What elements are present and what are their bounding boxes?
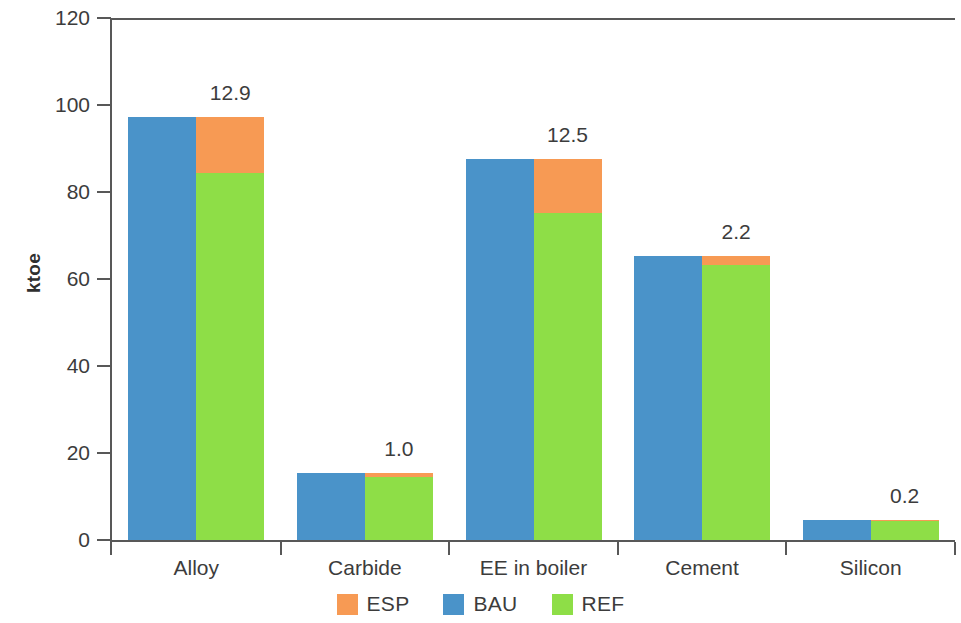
bar-stack-ref-esp — [871, 520, 939, 540]
bar-stack-ref-esp — [365, 473, 433, 540]
bar-group — [297, 18, 433, 540]
bar-segment-esp — [196, 117, 264, 173]
bar-bau — [297, 473, 365, 540]
bar-stack-ref-esp — [534, 159, 602, 540]
x-axis-tick — [954, 542, 956, 555]
legend-swatch-icon — [552, 594, 573, 615]
bar-value-label: 2.2 — [721, 220, 750, 244]
bar-stack-ref-esp — [702, 256, 770, 540]
x-axis-tick — [280, 542, 282, 555]
bar-group — [634, 18, 770, 540]
x-axis-category-label: Silicon — [840, 556, 902, 580]
y-axis-tick-label: 80 — [20, 180, 90, 204]
y-axis-tick-label: 40 — [20, 354, 90, 378]
bar-group — [466, 18, 602, 540]
y-axis-tick — [97, 365, 111, 367]
bar-bau — [128, 117, 196, 540]
y-axis-tick — [97, 191, 111, 193]
legend-item-ref[interactable]: REF — [552, 592, 625, 616]
x-axis-category-label: Alloy — [174, 556, 220, 580]
bar-segment-esp — [365, 473, 433, 477]
y-axis-tick-label: 60 — [20, 267, 90, 291]
legend-label: ESP — [367, 592, 410, 616]
x-axis-tick — [785, 542, 787, 555]
y-axis-tick-label: 0 — [20, 528, 90, 552]
legend-swatch-icon — [337, 594, 358, 615]
bar-segment-esp — [702, 256, 770, 266]
bar-bau — [466, 159, 534, 540]
legend-label: BAU — [473, 592, 517, 616]
bar-segment-esp — [871, 520, 939, 521]
bar-value-label: 12.9 — [210, 81, 251, 105]
legend-label: REF — [582, 592, 625, 616]
bar-segment-esp — [534, 159, 602, 213]
bar-stack-ref-esp — [196, 117, 264, 540]
y-axis-tick — [97, 278, 111, 280]
legend-item-esp[interactable]: ESP — [337, 592, 410, 616]
bar-bau — [803, 520, 871, 540]
bar-segment-ref — [702, 265, 770, 540]
x-axis-category-label: Cement — [665, 556, 739, 580]
bar-value-label: 0.2 — [890, 484, 919, 508]
bar-bau — [634, 256, 702, 540]
y-axis-tick — [97, 539, 111, 541]
bar-segment-ref — [534, 213, 602, 540]
x-axis-origin-tick — [110, 542, 112, 555]
x-axis-category-label: Carbide — [328, 556, 402, 580]
y-axis-tick — [97, 17, 111, 19]
bar-segment-ref — [871, 521, 939, 540]
y-axis-tick-label: 100 — [20, 93, 90, 117]
y-axis-tick-label: 20 — [20, 441, 90, 465]
bar-group — [803, 18, 939, 540]
x-axis-tick — [448, 542, 450, 555]
bar-value-label: 12.5 — [547, 123, 588, 147]
bar-segment-ref — [196, 173, 264, 540]
x-axis-tick — [617, 542, 619, 555]
legend-item-bau[interactable]: BAU — [443, 592, 517, 616]
y-axis-tick — [97, 452, 111, 454]
chart-legend: ESPBAUREF — [0, 592, 961, 616]
bar-chart: ktoe 020406080100120 12.91.012.52.20.2 A… — [0, 0, 961, 623]
bar-value-label: 1.0 — [384, 437, 413, 461]
y-axis-tick — [97, 104, 111, 106]
x-axis-category-label: EE in boiler — [480, 556, 587, 580]
y-axis-tick-label: 120 — [20, 6, 90, 30]
x-axis-line — [110, 540, 955, 542]
bar-segment-ref — [365, 477, 433, 540]
legend-swatch-icon — [443, 594, 464, 615]
